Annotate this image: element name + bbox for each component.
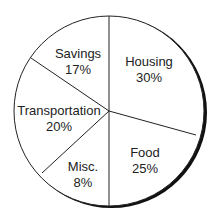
svg-text:8%: 8% [74,175,93,190]
svg-text:Savings: Savings [55,46,102,61]
svg-text:25%: 25% [132,161,158,176]
svg-text:Housing: Housing [125,54,173,69]
svg-text:17%: 17% [65,62,91,77]
svg-text:30%: 30% [136,70,162,85]
svg-text:20%: 20% [46,119,72,134]
svg-text:Misc.: Misc. [68,159,98,174]
svg-text:Food: Food [130,145,160,160]
pie-chart: Housing 30% Food 25% Misc. 8% Transporta… [0,0,218,222]
svg-text:Transportation: Transportation [17,103,100,118]
slice-label-food: Food 25% [130,145,160,176]
